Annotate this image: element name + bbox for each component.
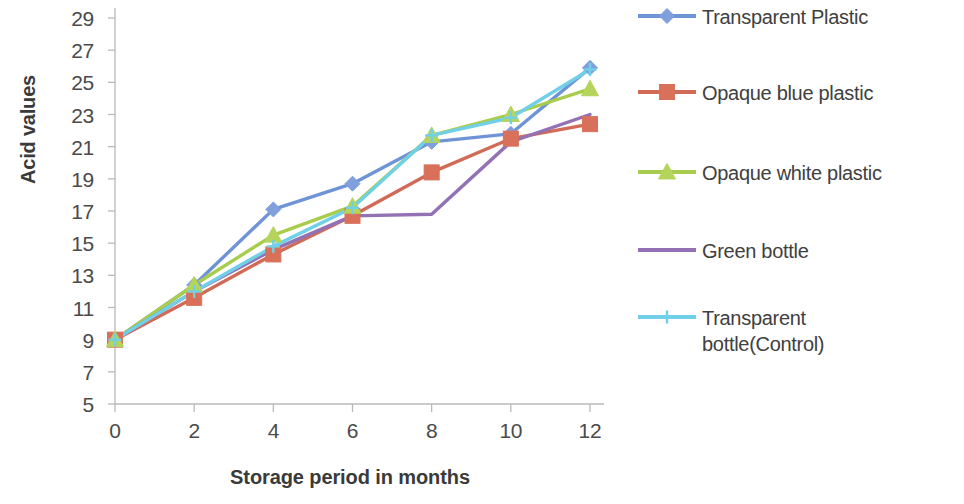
chart-legend: Transparent PlasticOpaque blue plasticOp… bbox=[636, 0, 964, 380]
x-axis-tick-labels: 024681012 bbox=[0, 418, 640, 458]
legend-item[interactable]: Transparent bottle(Control) bbox=[636, 305, 964, 357]
legend-item[interactable]: Opaque blue plastic bbox=[636, 80, 964, 106]
data-point-marker bbox=[345, 176, 360, 191]
x-axis-title: Storage period in months bbox=[110, 466, 590, 489]
x-axis-tick-label: 10 bbox=[486, 418, 536, 443]
data-point-marker bbox=[503, 131, 518, 146]
series-line bbox=[115, 115, 590, 340]
legend-marker-icon bbox=[636, 306, 698, 328]
legend-marker-icon bbox=[636, 81, 698, 103]
legend-label: Opaque white plastic bbox=[698, 160, 882, 186]
data-point-marker bbox=[582, 80, 599, 95]
legend-label: Green bottle bbox=[698, 238, 808, 264]
x-axis-tick-label: 4 bbox=[248, 418, 298, 443]
legend-label: Opaque blue plastic bbox=[698, 80, 873, 106]
legend-marker-icon bbox=[636, 239, 698, 261]
data-point-marker bbox=[583, 117, 598, 132]
x-axis-tick-label: 6 bbox=[328, 418, 378, 443]
legend-label: Transparent Plastic bbox=[698, 4, 868, 30]
legend-label: Transparent bottle(Control) bbox=[698, 305, 824, 357]
legend-item[interactable]: Green bottle bbox=[636, 238, 964, 264]
x-axis-tick-label: 12 bbox=[565, 418, 615, 443]
data-point-marker bbox=[660, 85, 675, 100]
data-point-marker bbox=[424, 165, 439, 180]
legend-marker-icon bbox=[636, 5, 698, 27]
x-axis-tick-label: 2 bbox=[169, 418, 219, 443]
x-axis-tick-label: 8 bbox=[407, 418, 457, 443]
legend-marker-icon bbox=[636, 161, 698, 183]
legend-item[interactable]: Opaque white plastic bbox=[636, 160, 964, 186]
line-chart: Acid values 57911131517192123252729 0246… bbox=[0, 0, 964, 504]
data-point-marker bbox=[660, 9, 675, 24]
legend-item[interactable]: Transparent Plastic bbox=[636, 4, 964, 30]
x-axis-tick-label: 0 bbox=[90, 418, 140, 443]
series-line bbox=[115, 124, 590, 340]
